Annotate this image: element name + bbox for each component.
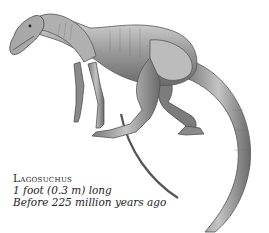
neck [40,14,96,62]
eye [29,25,32,28]
near-foreleg [88,62,104,128]
tail [186,60,251,232]
caption-size: 1 foot (0.3 m) long [13,184,166,196]
caption-species-name: Lagosuchus [13,172,166,184]
far-foreleg [74,62,84,122]
far-hind-foot [178,126,204,135]
caption-era: Before 225 million years ago [13,196,166,208]
figure-caption: Lagosuchus 1 foot (0.3 m) long Before 22… [13,172,166,208]
